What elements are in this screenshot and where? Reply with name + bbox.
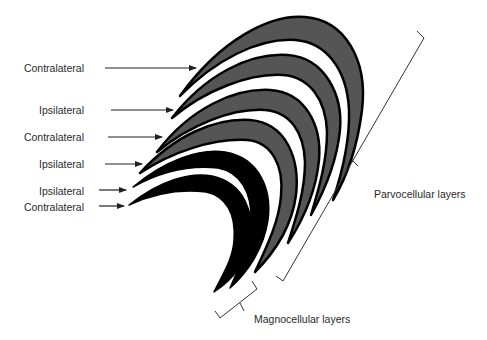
label-layer-4-input: Contralateral	[0, 131, 84, 143]
layer-1-magnocellular	[129, 175, 251, 292]
label-layer-5-input: Ipsilateral	[0, 104, 84, 116]
label-layer-1-input: Contralateral	[0, 201, 84, 213]
parvocellular-label: Parvocellular layers	[374, 188, 466, 200]
magnocellular-label: Magnocellular layers	[254, 313, 350, 325]
label-layer-3-input: Ipsilateral	[0, 158, 84, 170]
label-layer-6-input: Contralateral	[0, 62, 84, 74]
lgn-layers-diagram	[0, 0, 487, 340]
label-layer-2-input: Ipsilateral	[0, 185, 84, 197]
